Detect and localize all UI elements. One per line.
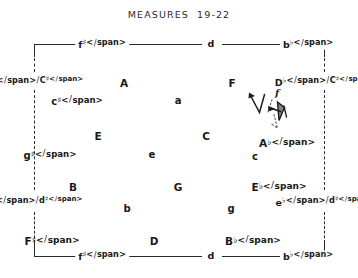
triad-label: g [227,203,234,214]
lattice-node: E♭</span> [252,181,307,192]
lattice-node: F♯</span> [24,235,79,246]
lattice-node: B♭</span> [225,235,281,246]
triad-label: F [228,77,235,89]
triad-label: F♯</span> [24,235,79,247]
triad-label: g♯</span> [24,150,77,161]
lattice-node: C [202,131,210,142]
triad-label: a [175,95,182,106]
lattice-node: D [150,236,159,247]
triad-label: E♭</span> [252,181,307,193]
tonnetz-figure: MEASURES 19-22 f♯</span> d b♭</span> f♯<… [0,0,358,278]
triad-lattice: A F c♯</span> a E C A♭</span> g♯</span> … [0,0,358,278]
lattice-node: g [227,204,234,214]
triad-label: A♭</span> [259,137,315,149]
lattice-node: b [123,204,130,214]
lattice-node: c [252,152,258,162]
lattice-node: B [69,182,77,193]
lattice-node: A♭</span> [259,137,315,148]
lattice-node: A [120,78,128,89]
triad-label: E [94,130,101,142]
lattice-node: E [94,131,101,142]
triad-label: b [123,203,130,214]
triad-label: B [69,181,77,193]
lattice-node: F [228,78,235,89]
triad-label: A [120,77,128,89]
triad-label: G [174,181,183,193]
triad-label: B♭</span> [225,235,281,247]
triad-label: C [202,130,210,142]
lattice-node: g♯</span> [24,149,77,161]
lattice-node: a [175,96,182,106]
lattice-node: e [149,150,156,160]
triad-label: c♯</span> [51,96,103,107]
triad-label: c [252,151,258,162]
lattice-node: c♯</span> [51,95,103,107]
lattice-node: G [174,182,183,193]
triad-label: D [150,235,159,247]
triad-label: e [149,149,156,160]
